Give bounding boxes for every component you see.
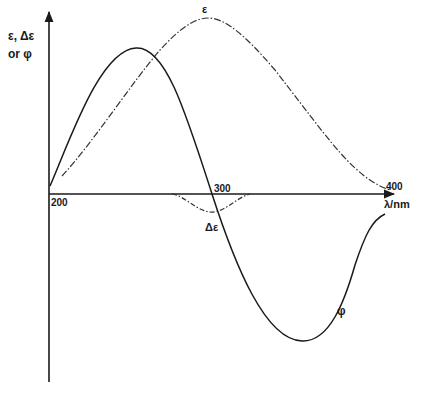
x-tick-300: 300 [214, 183, 231, 194]
y-axis-label-line2: or φ [8, 47, 32, 61]
delta-epsilon-curve [172, 194, 250, 212]
epsilon-label: ε [202, 3, 208, 15]
phi-label: φ [337, 304, 346, 318]
x-axis-label: λ/nm [384, 198, 410, 210]
y-axis-label-line1: ε, Δε [8, 29, 35, 43]
chart-canvas: ε, Δε or φ 200 300 400 λ/nm ε Δε φ [0, 0, 423, 394]
delta-epsilon-label: Δε [205, 221, 219, 233]
x-tick-400: 400 [386, 181, 403, 192]
x-tick-200: 200 [51, 197, 68, 208]
epsilon-curve [62, 18, 390, 190]
